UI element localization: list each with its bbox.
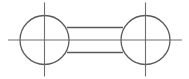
part-drawing-svg <box>0 0 189 79</box>
technical-drawing-canvas <box>0 0 189 79</box>
